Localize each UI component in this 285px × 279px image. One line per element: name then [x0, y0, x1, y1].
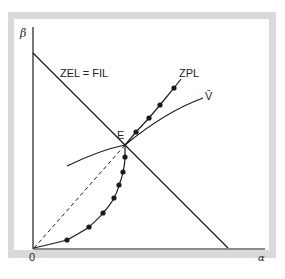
zel-fil-label: ZEL = FIL — [60, 68, 108, 79]
v-bar-label: V̄ — [205, 91, 212, 102]
diagram-canvas — [0, 0, 285, 279]
origin-label: 0 — [29, 252, 35, 263]
x-axis-label: α — [258, 253, 265, 263]
zpl-dots — [64, 85, 176, 242]
zpl-label: ZPL — [179, 68, 199, 79]
y-axis-label: β — [20, 28, 26, 39]
intersection-e-label: E — [117, 130, 124, 141]
zel-fil-line — [33, 53, 228, 248]
